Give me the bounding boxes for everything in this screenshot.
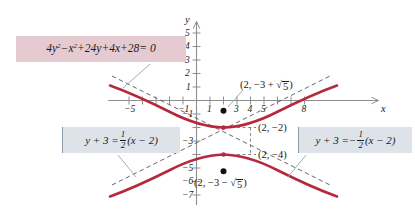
- y-tick-label--3: −3: [182, 137, 193, 147]
- asym-right-fraction: 12: [357, 130, 364, 149]
- y-tick-label--5: −5: [182, 164, 193, 174]
- x-tick-label-4: 4: [248, 105, 253, 115]
- asym-left-tail: (x − 2): [127, 135, 158, 146]
- eq-plus-1: +: [77, 43, 85, 55]
- asym-right-tail: (x − 2): [365, 135, 396, 146]
- asym-left-fraction: 12: [120, 130, 127, 149]
- focus-lower-label: (2, −3 − √5): [194, 178, 247, 191]
- sqrt-icon: √5: [276, 80, 289, 93]
- asymptote-right-text: y + 3 = −12(x − 2): [315, 130, 395, 149]
- y-tick-label--1: −1: [182, 110, 193, 120]
- asym-left-lead: y + 3 =: [85, 135, 118, 146]
- asym-left-numerator: 1: [120, 130, 127, 139]
- asymptote-right-callout-box: y + 3 = −12(x − 2): [298, 127, 412, 153]
- vertex-upper-label: (2, −2): [258, 123, 287, 134]
- focus-upper-open: (2, −3 +: [240, 79, 276, 90]
- eq-plus-3: +: [120, 43, 128, 55]
- vertex-upper-point: [221, 125, 225, 129]
- x-axis-name: x: [381, 104, 386, 115]
- x-tick-label-5: 5: [261, 105, 266, 115]
- focus-upper-point: [221, 108, 227, 114]
- focus-lower-close: ): [243, 177, 247, 188]
- plotted-points: [221, 108, 227, 174]
- x-tick-label-1: 1: [207, 105, 212, 115]
- vertex-lower-point: [221, 152, 225, 156]
- equation-text: 4y2 − x2 + 24y + 4x + 28 = 0: [46, 43, 156, 55]
- focus-upper-close: ): [289, 79, 293, 90]
- focus-lower-open: (2, −3 −: [194, 177, 230, 188]
- equation-callout-box: 4y2 − x2 + 24y + 4x + 28 = 0: [14, 36, 186, 62]
- leader-asymptote-right: [288, 155, 306, 177]
- asymptote-left-callout-box: y + 3 = 12(x − 2): [62, 127, 180, 153]
- focus-lower-point: [221, 168, 227, 174]
- asym-left-denominator: 2: [120, 140, 127, 150]
- eq-term-c: 24y: [85, 43, 102, 55]
- asym-right-denominator: 2: [357, 140, 364, 150]
- eq-term-b: x: [68, 43, 73, 55]
- reference-rectangle: [237, 128, 256, 155]
- x-tick-label-8: 8: [302, 105, 307, 115]
- eq-term-d: 4x: [109, 43, 120, 55]
- focus-upper-label: (2, −3 + √5): [240, 80, 293, 93]
- eq-term-e: 28: [128, 43, 140, 55]
- asym-right-numerator: 1: [357, 130, 364, 139]
- y-axis-name: y: [185, 15, 190, 26]
- y-tick-label-1: 1: [186, 83, 191, 93]
- asymptote-left-text: y + 3 = 12(x − 2): [85, 130, 158, 149]
- asym-right-lead: y + 3 =: [315, 135, 348, 146]
- x-tick-label-3: 3: [234, 105, 239, 115]
- eq-equals: = 0: [139, 43, 155, 55]
- leader-equation: [123, 64, 150, 88]
- vertex-lower-label: (2, −4): [258, 150, 287, 161]
- y-tick-label--7: −7: [182, 191, 193, 201]
- y-tick-label-2: 2: [185, 69, 190, 79]
- y-tick-label--6: −6: [182, 177, 193, 187]
- x-tick-label--5: −5: [124, 105, 135, 115]
- eq-term-a: 4y: [46, 43, 57, 55]
- eq-plus-2: +: [101, 43, 109, 55]
- sqrt-icon: √5: [230, 178, 243, 191]
- asym-right-sign: −: [349, 135, 356, 146]
- leader-asymptote-left: [118, 155, 136, 177]
